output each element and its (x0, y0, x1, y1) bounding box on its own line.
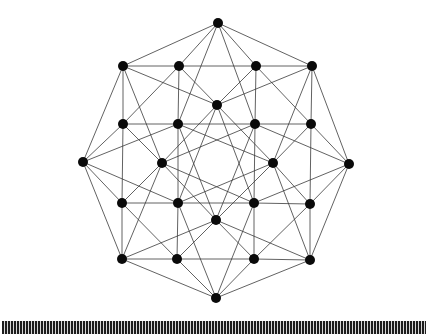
graph-edge (216, 163, 273, 220)
graph-edge (273, 66, 312, 163)
graph-edge (162, 124, 255, 163)
graph-node (268, 158, 278, 168)
graph-edge (218, 23, 255, 124)
graph-edge (178, 203, 216, 298)
node-layer (78, 18, 354, 303)
graph-node (157, 158, 167, 168)
graph-edge (216, 260, 310, 298)
graph-edge (273, 124, 311, 163)
graph-edge (83, 124, 178, 162)
graph-node (117, 254, 127, 264)
graph-edge (254, 259, 310, 260)
graph-edge (216, 203, 254, 298)
graph-edge (122, 259, 216, 298)
graph-edge (177, 203, 178, 259)
graph-edge (273, 163, 310, 204)
graph-node (250, 119, 260, 129)
graph-edge (311, 66, 312, 124)
graph-edge (312, 66, 349, 164)
graph-node (211, 215, 221, 225)
graph-edge (310, 164, 349, 204)
graph-node (344, 159, 354, 169)
graph-edge (162, 163, 254, 203)
graph-node (173, 198, 183, 208)
graph-node (249, 198, 259, 208)
graph-edge (178, 66, 179, 124)
graph-edge (122, 203, 177, 259)
graph-edge (218, 23, 256, 66)
graph-edge (254, 204, 310, 259)
graph-node (251, 61, 261, 71)
graph-edge (273, 163, 310, 260)
graph-node (174, 61, 184, 71)
graph-node (307, 61, 317, 71)
graph-edge (310, 124, 311, 204)
graph-diagram (0, 0, 428, 320)
graph-edge (255, 124, 349, 164)
graph-edge (217, 66, 312, 105)
graph-edge (254, 203, 310, 204)
graph-edge (83, 66, 123, 162)
graph-edge (177, 220, 216, 259)
striped-border-band (2, 321, 426, 334)
graph-edge (255, 66, 256, 124)
graph-edge (162, 163, 216, 220)
graph-node (306, 119, 316, 129)
graph-edge (216, 220, 254, 259)
graph-edge (83, 162, 122, 203)
graph-edge (83, 124, 123, 162)
graph-edge (217, 105, 273, 163)
graph-edge (310, 164, 349, 260)
graph-edge (216, 124, 255, 220)
graph-node (249, 254, 259, 264)
graph-node (172, 254, 182, 264)
graph-edge (177, 259, 216, 298)
graph-node (211, 293, 221, 303)
graph-node (213, 18, 223, 28)
graph-edge (179, 66, 217, 105)
graph-edge (254, 124, 255, 203)
graph-edge (216, 259, 254, 298)
graph-node (118, 119, 128, 129)
graph-edge (218, 23, 312, 66)
graph-edge (122, 163, 162, 203)
graph-edge (179, 23, 218, 66)
graph-node (118, 61, 128, 71)
graph-edge (256, 66, 311, 124)
graph-node (212, 100, 222, 110)
graph-edge (217, 66, 256, 105)
graph-edge (123, 66, 162, 163)
graph-node (117, 198, 127, 208)
graph-edge (122, 124, 123, 203)
graph-edge (123, 66, 179, 124)
graph-edge (311, 124, 349, 164)
graph-edge (162, 105, 217, 163)
graph-node (305, 199, 315, 209)
graph-edge (216, 220, 310, 260)
graph-node (78, 157, 88, 167)
graph-edge (217, 105, 254, 203)
graph-node (305, 255, 315, 265)
graph-edge (254, 164, 349, 203)
graph-edge (178, 124, 273, 163)
graph-edge (123, 66, 217, 105)
graph-node (173, 119, 183, 129)
